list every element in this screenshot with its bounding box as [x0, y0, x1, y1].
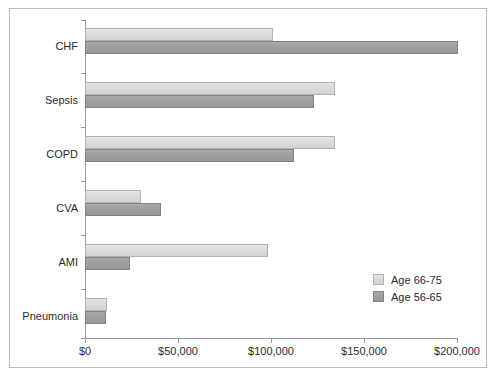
bar-copd-age-56-65 — [85, 149, 294, 162]
x-axis-tick-label-150000: $150,000 — [324, 345, 404, 357]
y-axis-label-sepsis: Sepsis — [8, 94, 78, 106]
bar-chart-plot: CHF Sepsis COPD CVA AMI Pneumonia $0 $50… — [0, 0, 500, 378]
y-axis-tick — [81, 20, 85, 21]
x-axis-tick — [271, 339, 272, 343]
bar-ami-age-56-65 — [85, 257, 130, 270]
y-axis-line — [85, 20, 86, 338]
x-axis-tick-label-100000: $100,000 — [231, 345, 311, 357]
y-axis-label-ami: AMI — [8, 256, 78, 268]
legend-swatch-icon-age-66-75 — [373, 274, 384, 285]
x-axis-tick — [85, 339, 86, 343]
y-axis-tick — [81, 127, 85, 128]
x-axis-tick — [178, 339, 179, 343]
bar-cva-age-56-65 — [85, 203, 161, 216]
bar-copd-age-66-75 — [85, 136, 335, 149]
y-axis-tick — [81, 235, 85, 236]
legend-swatch-icon-age-56-65 — [373, 291, 384, 302]
bar-pneumonia-age-56-65 — [85, 311, 106, 324]
bar-ami-age-66-75 — [85, 244, 268, 257]
legend-item-age-56-65: Age 56-65 — [373, 288, 473, 305]
x-axis-tick-label-0: $0 — [45, 345, 125, 357]
bar-cva-age-66-75 — [85, 190, 141, 203]
bar-chf-age-66-75 — [85, 28, 273, 41]
y-axis-tick — [81, 289, 85, 290]
y-axis-tick — [81, 181, 85, 182]
x-axis-tick-label-50000: $50,000 — [138, 345, 218, 357]
bar-chf-age-56-65 — [85, 41, 458, 54]
legend-item-age-66-75: Age 66-75 — [373, 271, 473, 288]
x-axis-tick-label-200000: $200,000 — [417, 345, 497, 357]
y-axis-label-copd: COPD — [8, 148, 78, 160]
legend-label-age-56-65: Age 56-65 — [391, 291, 442, 303]
bar-sepsis-age-56-65 — [85, 95, 314, 108]
x-axis-tick — [457, 339, 458, 343]
y-axis-label-chf: CHF — [8, 40, 78, 52]
legend-label-age-66-75: Age 66-75 — [391, 274, 442, 286]
y-axis-label-cva: CVA — [8, 202, 78, 214]
bar-sepsis-age-66-75 — [85, 82, 335, 95]
y-axis-tick — [81, 73, 85, 74]
bar-pneumonia-age-66-75 — [85, 298, 107, 311]
chart-legend: Age 66-75 Age 56-65 — [373, 271, 473, 305]
x-axis-tick — [364, 339, 365, 343]
y-axis-label-pneumonia: Pneumonia — [8, 310, 78, 322]
